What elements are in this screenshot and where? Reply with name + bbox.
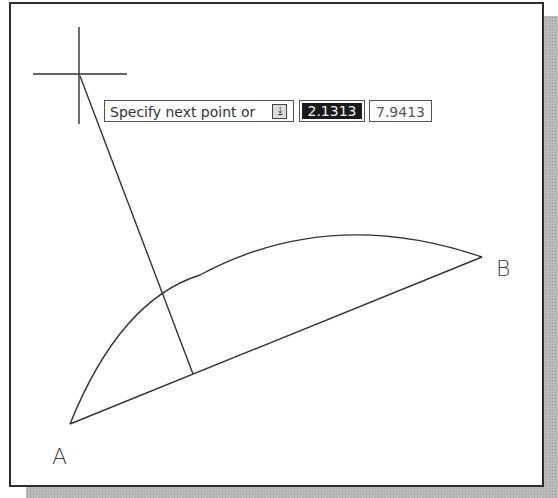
point-a-label: A [52, 444, 67, 469]
length-value[interactable]: 2.1313 [302, 103, 362, 119]
point-b-label: B [496, 256, 510, 281]
down-arrow-icon[interactable]: ⤓ [272, 104, 287, 119]
arc [70, 235, 482, 424]
length-input[interactable]: 2.1313 [299, 100, 365, 122]
prompt-text: Specify next point or [110, 104, 255, 120]
drawing-canvas [0, 0, 558, 498]
chord-line [70, 257, 482, 424]
command-prompt-tooltip: Specify next point or ⤓ [104, 100, 294, 122]
angle-input[interactable]: 7.9413 [369, 100, 432, 122]
